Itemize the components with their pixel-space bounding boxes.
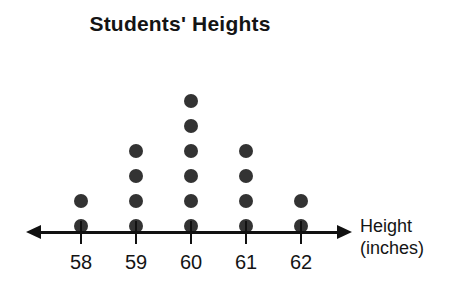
tick-mark-60	[190, 221, 192, 244]
axis-title: Height (inches)	[360, 216, 467, 260]
tick-mark-59	[135, 221, 137, 244]
dot-60-4	[184, 144, 198, 158]
dot-61-2	[239, 194, 253, 208]
axis-arrow-left-icon	[26, 225, 41, 239]
dot-59-3	[129, 169, 143, 183]
dot-60-2	[184, 194, 198, 208]
dot-60-5	[184, 119, 198, 133]
tick-label-60: 60	[168, 251, 214, 274]
dot-plot-figure: Students' Heights 5859606162 Height (inc…	[0, 0, 467, 289]
dot-60-6	[184, 94, 198, 108]
dot-60-3	[184, 169, 198, 183]
tick-mark-58	[80, 221, 82, 244]
dot-61-4	[239, 144, 253, 158]
tick-mark-62	[300, 221, 302, 244]
axis-arrow-right-icon	[337, 225, 352, 239]
tick-label-58: 58	[58, 251, 104, 274]
tick-label-59: 59	[113, 251, 159, 274]
tick-label-61: 61	[223, 251, 269, 274]
dot-59-4	[129, 144, 143, 158]
axis-title-line-1: Height	[360, 216, 467, 238]
tick-label-62: 62	[278, 251, 324, 274]
dot-58-2	[74, 194, 88, 208]
axis-title-line-2: (inches)	[360, 238, 467, 260]
plot-area	[0, 0, 360, 289]
dot-62-2	[294, 194, 308, 208]
dot-59-2	[129, 194, 143, 208]
dot-61-3	[239, 169, 253, 183]
tick-mark-61	[245, 221, 247, 244]
